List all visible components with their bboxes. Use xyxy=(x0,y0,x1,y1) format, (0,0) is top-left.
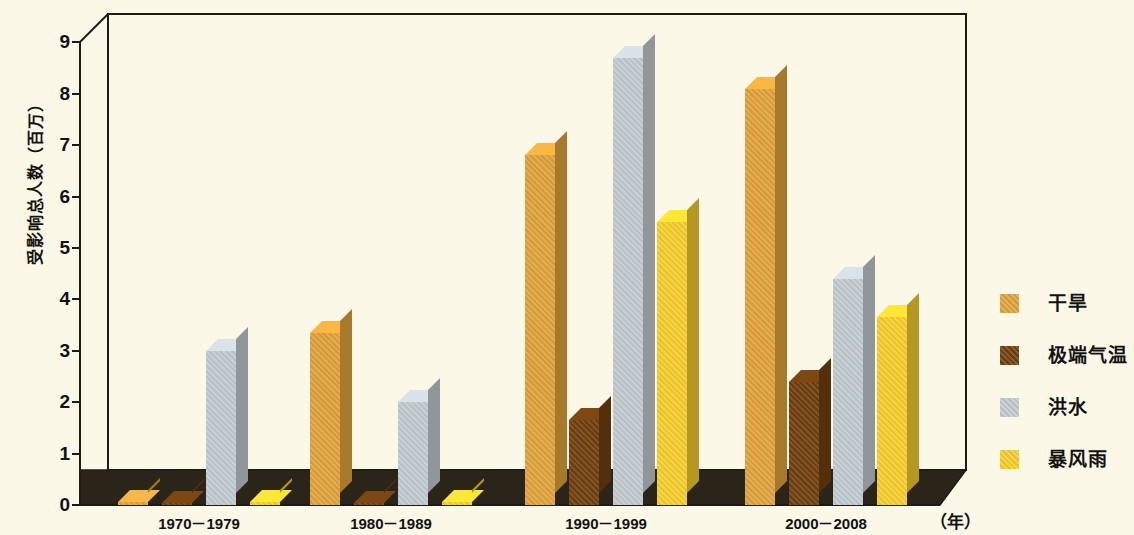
bar-front-face xyxy=(354,503,384,505)
bar-front-face xyxy=(569,420,599,505)
bar-side-face xyxy=(907,293,919,493)
bar-side-face xyxy=(340,309,352,493)
bar xyxy=(354,491,384,505)
legend-label: 暴风雨 xyxy=(1048,444,1108,471)
bar xyxy=(789,370,819,505)
bar-side-face xyxy=(643,34,655,493)
x-axis-label: 1970－1979 xyxy=(139,512,259,533)
bar-front-face xyxy=(833,279,863,505)
bar xyxy=(525,143,555,505)
bar xyxy=(206,339,236,505)
bar-side-face xyxy=(863,255,875,493)
bar xyxy=(398,390,428,505)
bar xyxy=(310,321,340,505)
bar xyxy=(745,77,775,505)
legend-swatch-icon xyxy=(1000,346,1019,365)
bar-front-face xyxy=(118,502,148,505)
bar-front-face xyxy=(250,502,280,505)
bar-front-face xyxy=(525,155,555,505)
bar-side-face xyxy=(236,327,248,493)
bar xyxy=(613,46,643,505)
bar-side-face xyxy=(599,396,611,493)
legend-label: 洪水 xyxy=(1048,392,1088,419)
bar-front-face xyxy=(877,317,907,505)
bar-front-face xyxy=(442,502,472,505)
bar-top-face xyxy=(118,490,160,502)
bar-front-face xyxy=(398,402,428,505)
bar-front-face xyxy=(206,351,236,505)
bar-front-face xyxy=(657,222,687,505)
x-axis-unit: （年） xyxy=(930,508,981,533)
bar-front-face xyxy=(613,58,643,505)
bar-side-face xyxy=(775,65,787,493)
legend-swatch-icon xyxy=(1000,294,1019,313)
legend-swatch-icon xyxy=(1000,450,1019,469)
bar xyxy=(250,490,280,505)
legend-swatch-icon xyxy=(1000,398,1019,417)
bars-layer xyxy=(0,0,1134,535)
bar-side-face xyxy=(555,131,567,493)
bar-front-face xyxy=(745,89,775,505)
bar xyxy=(442,490,472,505)
bar xyxy=(162,491,192,505)
bar xyxy=(833,267,863,505)
bar-top-face xyxy=(162,491,204,503)
bar-top-face xyxy=(442,490,484,502)
x-axis-label: 1980－1989 xyxy=(331,512,451,533)
bar-side-face xyxy=(819,358,831,493)
bar xyxy=(657,210,687,505)
bar-side-face xyxy=(428,378,440,493)
bar xyxy=(569,408,599,505)
bar-top-face xyxy=(354,491,396,503)
x-axis-label: 2000－2008 xyxy=(766,512,886,533)
bar-top-face xyxy=(250,490,292,502)
bar-front-face xyxy=(162,503,192,505)
chart-root: 受影响总人数（百万） 9876543210 1970－19791980－1989… xyxy=(0,0,1134,535)
bar-side-face xyxy=(687,198,699,493)
bar-front-face xyxy=(310,333,340,505)
legend-label: 干旱 xyxy=(1048,288,1088,315)
bar xyxy=(118,490,148,505)
bar-front-face xyxy=(789,382,819,505)
x-axis-label: 1990－1999 xyxy=(546,512,666,533)
bar xyxy=(877,305,907,505)
legend-label: 极端气温 xyxy=(1048,340,1128,367)
